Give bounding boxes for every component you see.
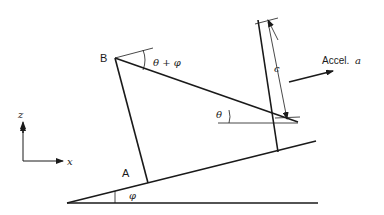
acceleration-arrow (289, 71, 333, 82)
angle-theta-phi-label: θ + φ (153, 57, 181, 68)
acceleration-symbol: a (355, 55, 361, 66)
z-axis-label: z (17, 109, 24, 120)
rod-ab (115, 58, 148, 183)
incline-line (67, 141, 316, 203)
phi-label: φ (129, 190, 136, 201)
line-b-to-rod (115, 58, 298, 122)
angle-arc-theta-phi (143, 50, 145, 70)
point-b-label: B (100, 52, 107, 64)
angle-arc-theta (229, 110, 230, 123)
rod-right (258, 20, 278, 152)
acceleration-prefix: Accel. (322, 55, 349, 66)
coordinate-axes: z x (17, 109, 73, 167)
diagram-canvas: z x φ A B θ + φ θ c Accel. a (0, 0, 384, 215)
point-a-label: A (122, 167, 130, 179)
x-axis-label: x (67, 156, 73, 167)
dimension-tick-bottom (275, 117, 300, 118)
angle-theta-label: θ (216, 109, 222, 120)
dimension-c-label: c (274, 63, 280, 74)
angle-reference-line-top (115, 48, 153, 58)
acceleration-label: Accel. a (322, 55, 361, 66)
